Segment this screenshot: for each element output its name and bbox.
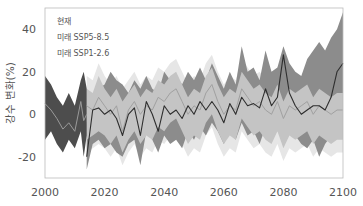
legend-item-historical: 현재	[57, 17, 71, 26]
legend-item-ssp585: 미래 SSP5-8.5	[57, 33, 109, 42]
x-axis-ticks: 200020202040206020802100	[31, 186, 357, 199]
y-tick-label: -20	[18, 151, 36, 164]
legend-item-ssp126: 미래 SSP1-2.6	[57, 49, 109, 58]
y-tick-label: 0	[29, 108, 36, 121]
y-axis-title: 강수 변화(%)	[4, 62, 16, 124]
y-axis-ticks: -2002040	[18, 23, 36, 164]
x-tick-label: 2100	[329, 186, 357, 199]
legend: 현재 미래 SSP5-8.5 미래 SSP1-2.6	[57, 17, 109, 58]
y-tick-label: 20	[22, 66, 36, 79]
historical-range-band	[45, 72, 87, 157]
x-tick-label: 2060	[210, 186, 238, 199]
x-tick-label: 2000	[31, 186, 59, 199]
x-tick-label: 2020	[91, 186, 119, 199]
y-tick-label: 40	[22, 23, 36, 36]
x-tick-label: 2080	[269, 186, 297, 199]
precipitation-change-chart: -2002040 200020202040206020802100 강수 변화(…	[0, 0, 363, 206]
x-tick-label: 2040	[150, 186, 178, 199]
